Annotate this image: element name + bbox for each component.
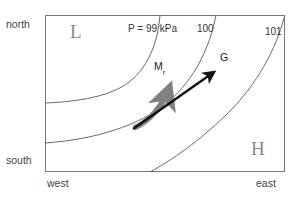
vector-label-g: G [220, 52, 228, 63]
direction-label-north: north [6, 19, 30, 30]
low-pressure-center-label: L [70, 22, 82, 41]
figure-container: north south west east L H P = 99 kPa 100… [0, 0, 297, 197]
direction-label-south: south [6, 155, 32, 166]
isobar-label-101: 101 [265, 27, 282, 37]
direction-label-west: west [47, 178, 69, 189]
vector-label-mr: Mr [154, 61, 165, 74]
vector-label-mr-subscript: r [163, 69, 165, 76]
direction-label-east: east [256, 178, 276, 189]
isobar-label-99: P = 99 kPa [128, 24, 177, 34]
vector-label-mr-base: M [154, 60, 163, 72]
isobar-label-100: 100 [197, 24, 214, 34]
high-pressure-center-label: H [251, 139, 265, 158]
